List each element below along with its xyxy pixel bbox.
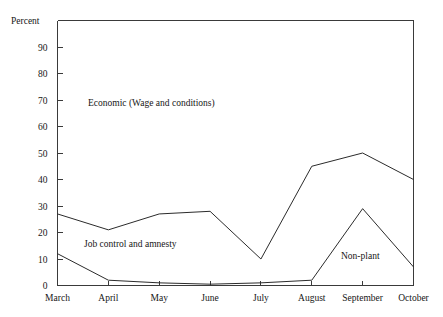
x-tick-label: August	[298, 293, 326, 303]
y-tick-label: 80	[38, 69, 48, 79]
series-annotations-group: Economic (Wage and conditions)Job contro…	[84, 98, 380, 261]
x-axis-tick-labels: MarchAprilMayJuneJulyAugustSeptemberOcto…	[45, 293, 430, 303]
y-tick-label: 10	[38, 255, 48, 265]
y-axis-ticks	[58, 47, 63, 286]
x-tick-label: July	[253, 293, 269, 303]
chart-container: 0102030405060708090 MarchAprilMayJuneJul…	[0, 0, 443, 317]
x-tick-label: October	[398, 293, 429, 303]
data-series-group	[58, 153, 414, 284]
series-annotation-label: Job control and amnesty	[84, 239, 177, 249]
y-tick-label: 0	[43, 281, 48, 291]
y-tick-label: 90	[38, 43, 48, 53]
x-axis-ticks	[108, 281, 362, 286]
y-tick-label: 50	[38, 149, 48, 159]
y-tick-label: 70	[38, 96, 48, 106]
x-tick-label: June	[201, 293, 218, 303]
x-tick-label: May	[151, 293, 169, 303]
x-tick-label: March	[45, 293, 70, 303]
x-tick-label: April	[98, 293, 118, 303]
y-axis-title: Percent	[11, 16, 40, 26]
y-tick-label: 20	[38, 228, 48, 238]
series-annotation-label: Economic (Wage and conditions)	[88, 98, 215, 109]
series-annotation-label: Non-plant	[341, 251, 380, 261]
x-tick-label: September	[342, 293, 383, 303]
y-axis-tick-labels: 0102030405060708090	[38, 43, 48, 292]
y-tick-label: 30	[38, 202, 48, 212]
line-chart: 0102030405060708090 MarchAprilMayJuneJul…	[0, 0, 443, 317]
y-tick-label: 60	[38, 122, 48, 132]
y-tick-label: 40	[38, 175, 48, 185]
